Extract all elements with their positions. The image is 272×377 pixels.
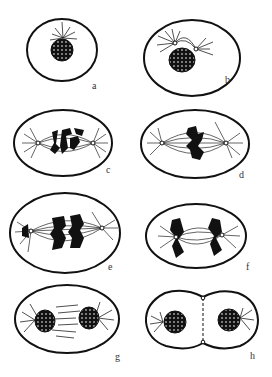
mitosis-figure: a b c d e f g h — [0, 0, 272, 377]
panel-label-c: c — [106, 165, 110, 175]
cell-h-cytokinesis — [146, 291, 258, 349]
cell-d-metaphase — [141, 110, 249, 178]
cell-g-telophase — [15, 285, 119, 353]
panel-label-d: d — [239, 170, 244, 180]
panel-label-b: b — [225, 75, 230, 85]
panel-label-e: e — [108, 262, 112, 272]
panel-label-g: g — [115, 352, 120, 362]
cell-c-prometaphase — [14, 110, 112, 176]
cell-e-anaphase — [10, 193, 120, 273]
panel-label-a: a — [92, 81, 96, 91]
cell-a-interphase — [27, 19, 97, 81]
mitosis-illustration — [0, 0, 272, 377]
panel-label-h: h — [250, 351, 255, 361]
panel-label-f: f — [246, 262, 249, 272]
cell-f-late-anaphase — [146, 204, 246, 268]
